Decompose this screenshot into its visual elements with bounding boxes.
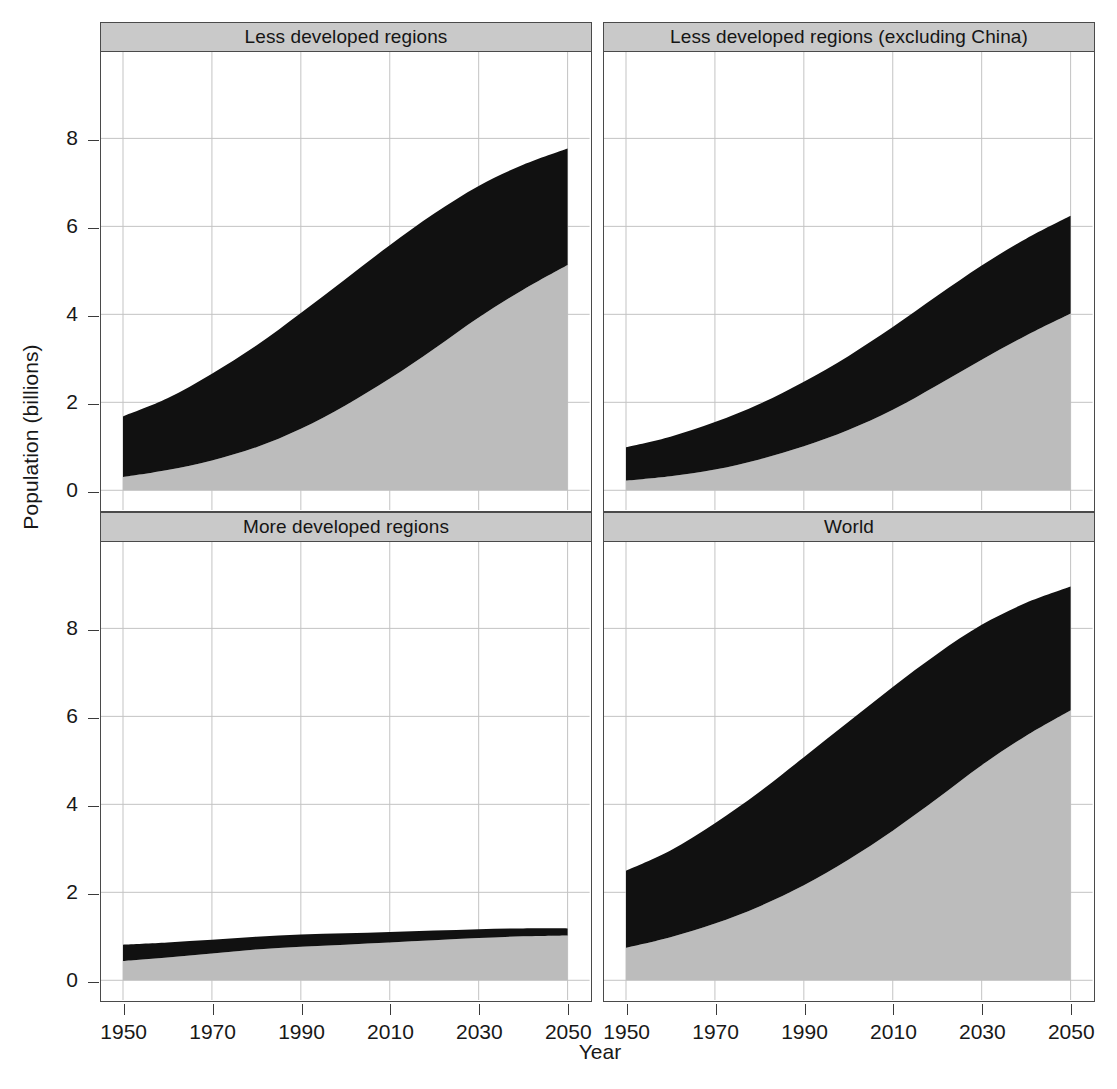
x-tick-mark bbox=[213, 1004, 214, 1015]
panel-title-less-developed-excl-china: Less developed regions (excluding China) bbox=[603, 22, 1095, 52]
x-tick-mark bbox=[893, 1004, 894, 1015]
y-tick-label: 8 bbox=[32, 126, 78, 150]
x-tick-label: 2030 bbox=[444, 1020, 514, 1044]
x-tick-mark bbox=[805, 1004, 806, 1015]
x-tick-mark bbox=[479, 1004, 480, 1015]
x-tick-label: 1970 bbox=[178, 1020, 248, 1044]
panel-more-developed: More developed regions bbox=[100, 512, 592, 1002]
figure-root: Population (billions) Year 0246802468195… bbox=[0, 0, 1117, 1089]
y-tick-mark bbox=[88, 404, 99, 405]
plot-area-less-developed-excl-china bbox=[603, 52, 1095, 512]
x-tick-mark bbox=[568, 1004, 569, 1015]
x-tick-label: 2030 bbox=[947, 1020, 1017, 1044]
panel-title-less-developed: Less developed regions bbox=[100, 22, 592, 52]
y-tick-label: 6 bbox=[32, 214, 78, 238]
x-tick-label: 2010 bbox=[355, 1020, 425, 1044]
x-tick-label: 1970 bbox=[681, 1020, 751, 1044]
y-tick-label: 4 bbox=[32, 792, 78, 816]
x-tick-mark bbox=[716, 1004, 717, 1015]
y-axis-title: Population (billions) bbox=[19, 217, 43, 657]
y-tick-label: 0 bbox=[32, 968, 78, 992]
panel-less-developed: Less developed regions bbox=[100, 22, 592, 512]
x-tick-mark bbox=[627, 1004, 628, 1015]
x-tick-mark bbox=[390, 1004, 391, 1015]
y-tick-label: 2 bbox=[32, 390, 78, 414]
panel-less-developed-excl-china: Less developed regions (excluding China) bbox=[603, 22, 1095, 512]
y-tick-mark bbox=[88, 806, 99, 807]
plot-area-less-developed bbox=[100, 52, 592, 512]
x-tick-label: 1950 bbox=[89, 1020, 159, 1044]
plot-area-more-developed bbox=[100, 542, 592, 1002]
x-tick-label: 2010 bbox=[858, 1020, 928, 1044]
y-tick-mark bbox=[88, 894, 99, 895]
y-tick-mark bbox=[88, 630, 99, 631]
x-tick-mark bbox=[124, 1004, 125, 1015]
y-tick-mark bbox=[88, 982, 99, 983]
x-tick-mark bbox=[1071, 1004, 1072, 1015]
y-tick-mark bbox=[88, 140, 99, 141]
x-tick-label: 1950 bbox=[592, 1020, 662, 1044]
x-tick-mark bbox=[302, 1004, 303, 1015]
panel-title-more-developed: More developed regions bbox=[100, 512, 592, 542]
x-tick-label: 1990 bbox=[770, 1020, 840, 1044]
y-tick-mark bbox=[88, 316, 99, 317]
y-tick-label: 8 bbox=[32, 616, 78, 640]
y-tick-label: 2 bbox=[32, 880, 78, 904]
x-tick-mark bbox=[982, 1004, 983, 1015]
y-tick-mark bbox=[88, 492, 99, 493]
plot-area-world bbox=[603, 542, 1095, 1002]
y-tick-label: 4 bbox=[32, 302, 78, 326]
panel-world: World bbox=[603, 512, 1095, 1002]
y-tick-mark bbox=[88, 718, 99, 719]
y-tick-label: 6 bbox=[32, 704, 78, 728]
x-tick-label: 2050 bbox=[1036, 1020, 1106, 1044]
panel-title-world: World bbox=[603, 512, 1095, 542]
x-tick-label: 1990 bbox=[267, 1020, 337, 1044]
y-tick-label: 0 bbox=[32, 478, 78, 502]
y-tick-mark bbox=[88, 228, 99, 229]
